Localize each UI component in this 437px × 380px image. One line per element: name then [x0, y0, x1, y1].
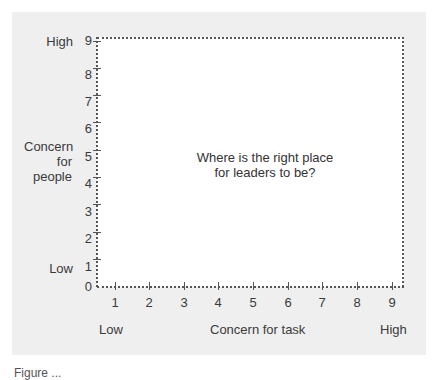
x-tick-9 — [392, 282, 393, 290]
y-tick-label-6: 6 — [80, 122, 92, 136]
x-tick-label-5: 5 — [243, 296, 263, 310]
x-tick-label-9: 9 — [382, 296, 402, 310]
center-question-line1: Where is the right place — [180, 150, 350, 165]
y-tick-label-5: 5 — [80, 150, 92, 164]
x-axis-title: Concern for task — [210, 322, 305, 337]
x-tick-label-6: 6 — [278, 296, 298, 310]
y-tick-6 — [93, 122, 101, 123]
y-tick-3 — [93, 204, 101, 205]
y-tick-5 — [93, 150, 101, 151]
y-tick-label-2: 2 — [80, 232, 92, 246]
x-tick-label-4: 4 — [208, 296, 228, 310]
x-tick-label-2: 2 — [139, 296, 159, 310]
center-question-line2: for leaders to be? — [180, 165, 350, 180]
y-tick-9 — [93, 41, 101, 42]
x-high-label: High — [380, 322, 407, 337]
y-tick-1 — [93, 259, 101, 260]
x-tick-7 — [322, 282, 323, 290]
x-tick-2 — [149, 282, 150, 290]
y-axis-title-line2: for — [24, 154, 72, 169]
x-tick-label-7: 7 — [312, 296, 332, 310]
y-tick-label-9: 9 — [80, 34, 92, 48]
x-low-label: Low — [99, 322, 123, 337]
x-tick-label-1: 1 — [105, 296, 125, 310]
x-tick-label-3: 3 — [174, 296, 194, 310]
y-tick-8 — [93, 68, 101, 69]
y-high-label: High — [33, 34, 73, 49]
y-tick-label-4: 4 — [80, 177, 92, 191]
y-axis-title-line1: Concern — [24, 139, 72, 154]
x-tick-3 — [184, 282, 185, 290]
y-tick-label-7: 7 — [80, 95, 92, 109]
y-axis-title-line3: people — [24, 169, 72, 184]
center-question: Where is the right place for leaders to … — [180, 150, 350, 180]
y-low-label: Low — [33, 261, 73, 276]
x-tick-5 — [253, 282, 254, 290]
y-tick-7 — [93, 95, 101, 96]
y-axis-line — [96, 37, 98, 287]
y-tick-label-3: 3 — [80, 205, 92, 219]
x-tick-4 — [218, 282, 219, 290]
figure-caption: Figure ... — [14, 366, 61, 380]
y-tick-4 — [93, 177, 101, 178]
y-tick-label-0: 0 — [80, 280, 92, 294]
x-tick-8 — [357, 282, 358, 290]
x-tick-6 — [288, 282, 289, 290]
y-tick-label-1: 1 — [80, 260, 92, 274]
x-tick-label-8: 8 — [347, 296, 367, 310]
x-tick-1 — [115, 282, 116, 290]
y-tick-2 — [93, 232, 101, 233]
y-tick-label-8: 8 — [80, 68, 92, 82]
